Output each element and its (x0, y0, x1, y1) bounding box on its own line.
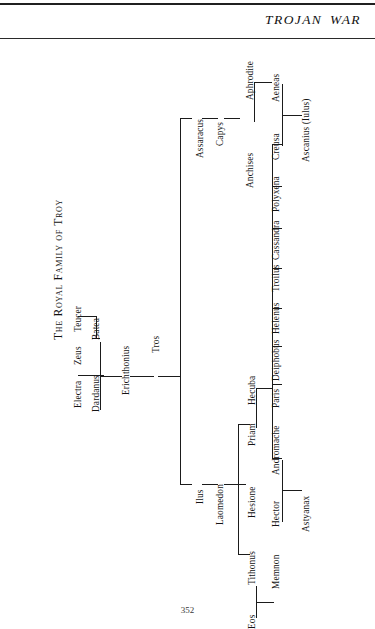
node-polyxena: Polyxena (272, 176, 281, 212)
split-tros (180, 118, 181, 484)
branch-paris (272, 384, 282, 385)
node-teucer: Teucer (74, 306, 83, 332)
union-hector-andromache (282, 460, 283, 522)
node-cassandra: Cassandra (272, 220, 281, 260)
node-electra: Electra (74, 381, 83, 408)
connector-tros-out (158, 376, 180, 377)
node-troilus: Troilus (272, 264, 281, 292)
node-zeus: Zeus (74, 346, 83, 365)
union-priam-hecuba (256, 388, 257, 428)
node-erichthonius: Erichthonius (122, 346, 131, 395)
connector-to-erichthonius (100, 376, 122, 377)
connector-to-aeneas (254, 82, 272, 83)
union-anchises-aphrodite (254, 82, 255, 122)
node-tithonus: Tithonus (248, 551, 257, 585)
node-assaracus: Assaracus (196, 119, 205, 158)
node-anchises: Anchises (246, 153, 255, 188)
branch-tros-ilus (180, 484, 192, 485)
node-creusa: Creusa (272, 133, 281, 160)
connector-teucer-batea (78, 316, 96, 317)
node-astyanax: Astyanax (302, 496, 311, 532)
node-paris: Paris (272, 389, 281, 408)
connector-to-astyanax (282, 490, 302, 491)
node-deiphobus: Deiphobus (272, 339, 281, 381)
chart-title: The Royal Family of Troy (52, 199, 65, 340)
node-tros: Tros (152, 336, 161, 353)
family-tree-diagram: The Royal Family of Troy Electra Zeus Te… (0, 40, 375, 600)
connector-priam-children (256, 388, 272, 389)
node-batea: Batea (92, 318, 101, 340)
node-helenus: Helenus (272, 302, 281, 334)
split-laomedon (238, 424, 239, 554)
branch-tros-assaracus (180, 118, 192, 119)
running-head: TROJAN WAR (265, 12, 361, 28)
node-hector: Hector (272, 501, 281, 527)
node-hesione: Hesione (248, 486, 257, 518)
connector-to-ascanius (282, 115, 302, 116)
node-ascanius: Ascanius (Iulus) (302, 98, 311, 162)
node-laomedon: Laomedon (216, 484, 225, 525)
node-ilus: Ilus (196, 489, 205, 504)
node-aeneas: Aeneas (272, 74, 281, 102)
connector-erichthonius-tros (130, 376, 154, 377)
page-number: 352 (181, 605, 195, 615)
header-rule-top (0, 3, 375, 5)
node-andromache: Andromache (272, 425, 281, 475)
header-rule-bottom (0, 38, 375, 39)
node-memnon: Memnon (272, 555, 281, 589)
branch-laomedon-hesione (238, 484, 246, 485)
connector-laomedon-out (224, 484, 238, 485)
connector-to-memnon (256, 602, 274, 603)
connector-assaracus-capys (202, 118, 218, 119)
connector-capys-anchises (224, 118, 240, 119)
node-capys: Capys (216, 122, 225, 146)
